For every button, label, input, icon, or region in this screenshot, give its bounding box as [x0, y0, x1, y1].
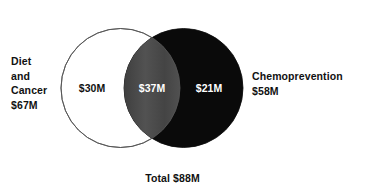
value-intersection: $37M: [124, 82, 180, 94]
venn-diagram-figure: Diet and Cancer $67M Chemoprevention $58…: [0, 0, 365, 192]
value-left-only: $30M: [63, 82, 121, 94]
figure-caption-total: Total $88M: [0, 171, 345, 186]
value-right-only: $21M: [181, 82, 237, 94]
set-label-left: Diet and Cancer $67M: [11, 54, 47, 112]
set-label-right: Chemoprevention $58M: [252, 69, 343, 98]
